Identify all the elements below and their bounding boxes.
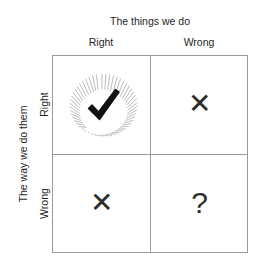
column-axis-title: The things we do	[52, 15, 248, 28]
matrix-grid: ✕ ✕ ?	[52, 55, 248, 253]
checkmark-sunburst-icon	[62, 65, 142, 145]
cell-right-right	[53, 56, 150, 154]
cross-x-icon: ✕	[188, 90, 211, 118]
cell-wrong-wrong: ?	[151, 155, 248, 253]
column-header-wrong: Wrong	[150, 36, 248, 49]
question-mark-icon: ?	[191, 188, 208, 218]
column-header-right: Right	[52, 36, 150, 49]
matrix-diagram: The things we do Right Wrong The way we …	[0, 0, 259, 268]
row-axis-title: The way we do them	[16, 55, 30, 253]
row-header-wrong: Wrong	[38, 154, 51, 253]
cross-x-icon: ✕	[90, 189, 113, 217]
cell-right-wrong: ✕	[53, 155, 150, 253]
cell-wrong-right: ✕	[151, 56, 248, 154]
row-header-right: Right	[38, 55, 51, 154]
